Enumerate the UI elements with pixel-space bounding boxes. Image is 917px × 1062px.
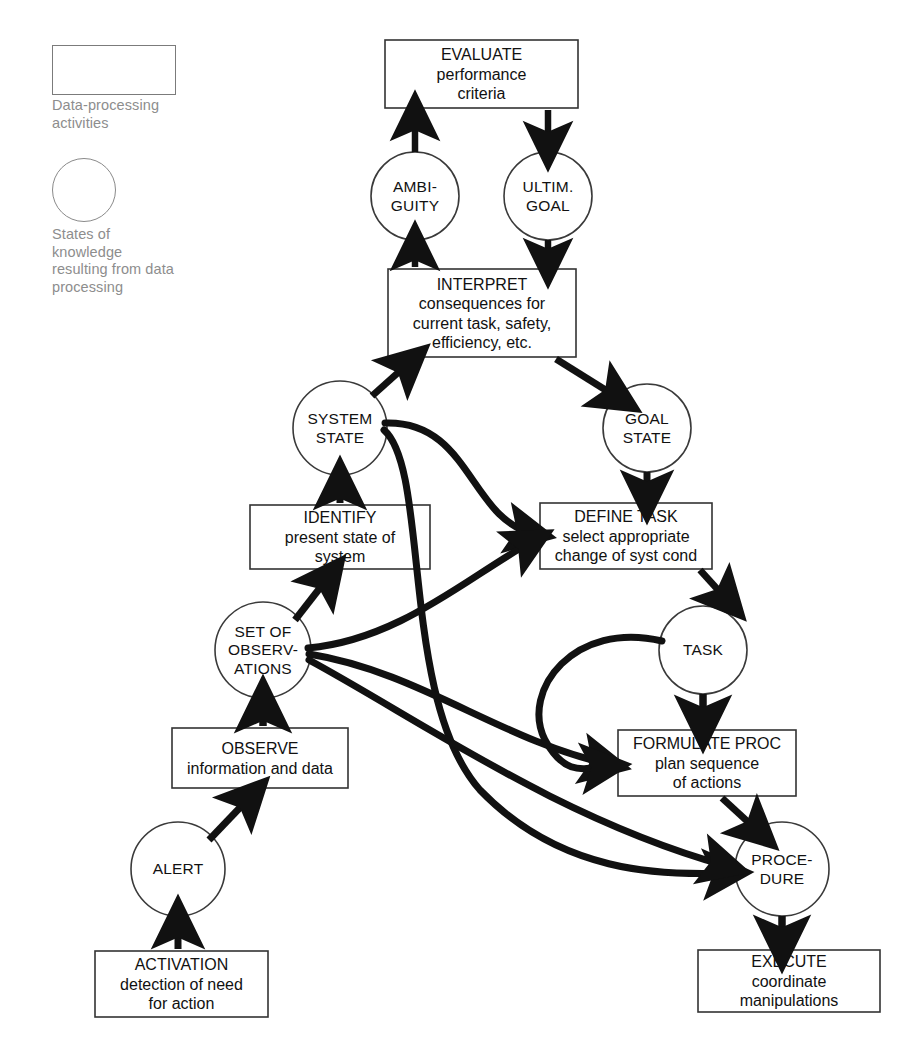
diagram-graphics bbox=[0, 0, 917, 1062]
box-identify bbox=[250, 505, 430, 569]
circle-ambiguity bbox=[371, 152, 459, 240]
box-interpret bbox=[388, 269, 576, 357]
box-formulate bbox=[618, 730, 796, 796]
box-define bbox=[540, 503, 712, 569]
box-activation bbox=[95, 951, 268, 1017]
circle-task bbox=[659, 606, 747, 694]
box-evaluate bbox=[385, 40, 578, 108]
node-shapes bbox=[95, 40, 880, 1017]
diagram-canvas: Data-processing activities States of kno… bbox=[0, 0, 917, 1062]
box-execute bbox=[698, 950, 880, 1012]
circle-procedure bbox=[735, 822, 829, 916]
box-observe bbox=[172, 728, 348, 788]
circle-ultimgoal bbox=[504, 152, 592, 240]
